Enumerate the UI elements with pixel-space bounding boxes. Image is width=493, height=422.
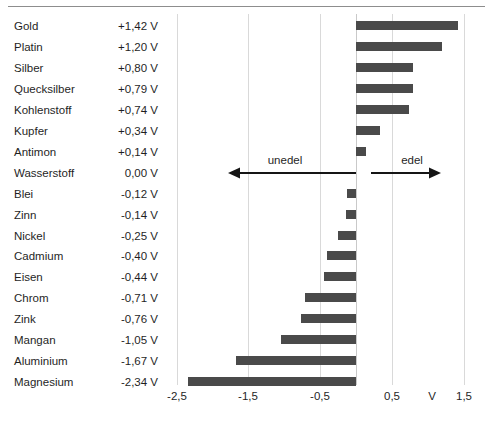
- x-tick--2-5: -2,5: [167, 390, 187, 403]
- x-axis-unit-label: V: [428, 390, 436, 403]
- row-value-quecksilber: +0,79 V: [96, 83, 158, 96]
- row-name-gold: Gold: [14, 20, 100, 33]
- bar-gold: [356, 21, 458, 30]
- top-divider: [8, 6, 485, 7]
- row-name-blei: Blei: [14, 188, 100, 201]
- bar-silber: [356, 63, 413, 72]
- x-tick-0-5: 0,5: [384, 390, 400, 403]
- row-value-aluminium: -1,67 V: [96, 355, 158, 368]
- row-value-wasserstoff: 0,00 V: [96, 167, 158, 180]
- gridline-1-5: [464, 14, 465, 385]
- bar-cadmium: [327, 251, 356, 260]
- row-name-eisen: Eisen: [14, 271, 100, 284]
- bar-magnesium: [188, 377, 356, 386]
- row-name-quecksilber: Quecksilber: [14, 83, 100, 96]
- arrow-left-unedel-icon: [228, 165, 356, 181]
- bar-mangan: [281, 335, 356, 344]
- bar-zinn: [346, 210, 356, 219]
- row-name-antimon: Antimon: [14, 146, 100, 159]
- x-tick--1-5: -1,5: [238, 390, 258, 403]
- row-value-gold: +1,42 V: [96, 20, 158, 33]
- bar-zink: [301, 314, 356, 323]
- x-tick--0-5: -0,5: [310, 390, 330, 403]
- row-value-magnesium: -2,34 V: [96, 376, 158, 389]
- row-name-chrom: Chrom: [14, 292, 100, 305]
- row-name-silber: Silber: [14, 62, 100, 75]
- bar-aluminium: [236, 356, 356, 365]
- x-tick-1-5: 1,5: [456, 390, 472, 403]
- row-name-cadmium: Cadmium: [14, 250, 100, 263]
- row-value-blei: -0,12 V: [96, 188, 158, 201]
- row-value-zink: -0,76 V: [96, 313, 158, 326]
- row-name-kohlenstoff: Kohlenstoff: [14, 104, 100, 117]
- row-value-kohlenstoff: +0,74 V: [96, 104, 158, 117]
- row-name-mangan: Mangan: [14, 334, 100, 347]
- row-name-wasserstoff: Wasserstoff: [14, 167, 100, 180]
- bar-platin: [356, 42, 442, 51]
- row-value-eisen: -0,44 V: [96, 271, 158, 284]
- row-name-zink: Zink: [14, 313, 100, 326]
- row-value-platin: +1,20 V: [96, 41, 158, 54]
- row-value-kupfer: +0,34 V: [96, 125, 158, 138]
- row-value-zinn: -0,14 V: [96, 209, 158, 222]
- row-value-silber: +0,80 V: [96, 62, 158, 75]
- figure-root: Gold+1,42 VPlatin+1,20 VSilber+0,80 VQue…: [0, 0, 493, 422]
- gridline--1-5: [248, 14, 249, 385]
- bar-chrom: [305, 293, 356, 302]
- row-name-nickel: Nickel: [14, 230, 100, 243]
- bar-kupfer: [356, 126, 380, 135]
- row-value-mangan: -1,05 V: [96, 334, 158, 347]
- row-name-magnesium: Magnesium: [14, 376, 100, 389]
- bar-antimon: [356, 147, 366, 156]
- arrow-right-edel-icon: [371, 165, 441, 181]
- gridline--0-5: [320, 14, 321, 385]
- bar-quecksilber: [356, 84, 413, 93]
- row-value-nickel: -0,25 V: [96, 230, 158, 243]
- row-value-antimon: +0,14 V: [96, 146, 158, 159]
- bar-eisen: [324, 272, 356, 281]
- row-name-aluminium: Aluminium: [14, 355, 100, 368]
- row-value-chrom: -0,71 V: [96, 292, 158, 305]
- cropped-footer-text: [18, 412, 248, 418]
- row-name-platin: Platin: [14, 41, 100, 54]
- bar-nickel: [338, 231, 356, 240]
- bar-blei: [347, 189, 356, 198]
- row-name-zinn: Zinn: [14, 209, 100, 222]
- gridline--2-5: [177, 14, 178, 385]
- bar-kohlenstoff: [356, 105, 409, 114]
- row-value-cadmium: -0,40 V: [96, 250, 158, 263]
- row-name-kupfer: Kupfer: [14, 125, 100, 138]
